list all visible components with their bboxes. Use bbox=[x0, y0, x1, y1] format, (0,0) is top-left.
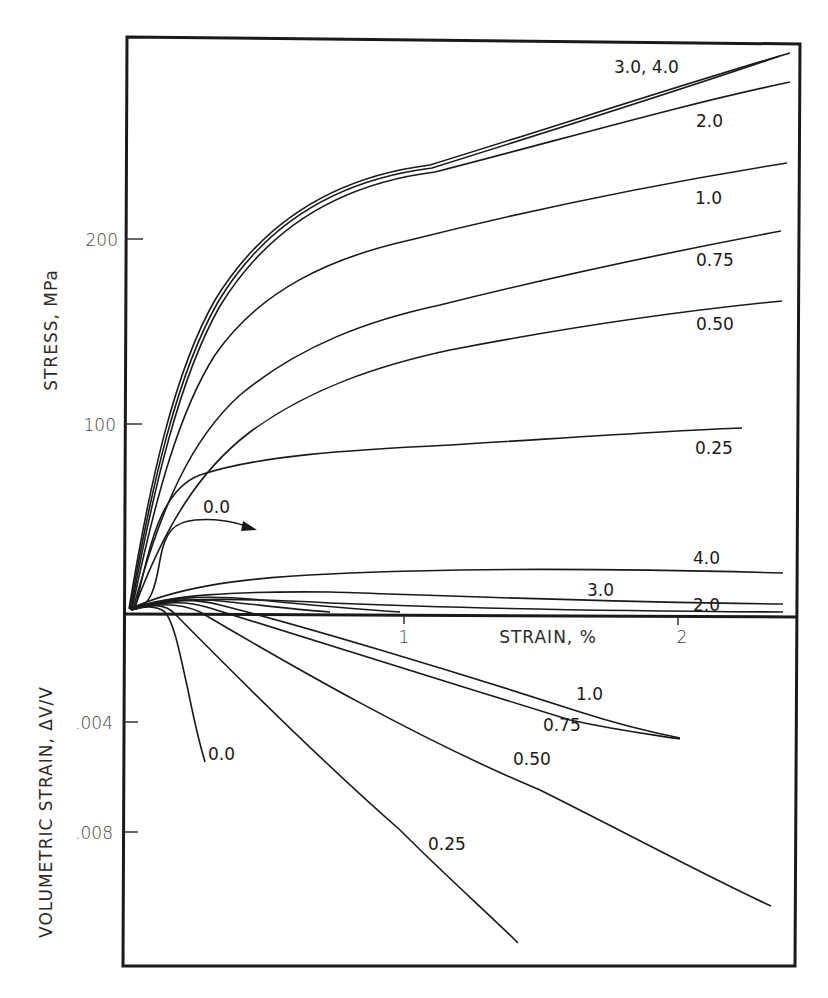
volumetric-axis-title: VOLUMETRIC STRAIN, ΔV/V bbox=[36, 686, 56, 938]
label-vol-075: 0.75 bbox=[543, 715, 581, 735]
arrow-icon bbox=[241, 521, 257, 531]
label-vol-0: 0.0 bbox=[208, 744, 235, 764]
x-tick-label-1: 1 bbox=[399, 627, 410, 647]
label-vol-3: 3.0 bbox=[587, 580, 614, 600]
curve-3-4 bbox=[129, 53, 790, 609]
low-stress-lines bbox=[130, 569, 783, 612]
label-075: 0.75 bbox=[696, 250, 734, 270]
label-025: 0.25 bbox=[695, 438, 733, 458]
stress-curves bbox=[129, 53, 790, 609]
volumetric-curves bbox=[131, 600, 771, 943]
label-vol-2: 2.0 bbox=[693, 595, 720, 615]
label-vol-050: 0.50 bbox=[513, 749, 551, 769]
y-tick-label-008: .008 bbox=[75, 823, 113, 843]
curve-025 bbox=[135, 428, 742, 609]
curve-3-4b bbox=[130, 56, 780, 609]
label-3-4: 3.0, 4.0 bbox=[614, 57, 679, 77]
stress-axis-title: STRESS, MPa bbox=[41, 269, 61, 391]
y-tick-label-200: 200 bbox=[86, 230, 118, 250]
curve-1 bbox=[132, 163, 787, 609]
vol-curve-025 bbox=[131, 606, 518, 943]
x-tick-label-2: 2 bbox=[677, 627, 688, 647]
label-vol-025: 0.25 bbox=[428, 834, 466, 854]
label-vol-1: 1.0 bbox=[576, 684, 603, 704]
strain-axis-title: STRAIN, % bbox=[499, 627, 597, 647]
vol-curve-075 bbox=[131, 603, 680, 739]
vol-curve-0 bbox=[131, 607, 205, 762]
label-2: 2.0 bbox=[696, 111, 723, 131]
curve-2 bbox=[131, 82, 790, 609]
curve-050 bbox=[134, 301, 782, 609]
y-tick-label-100: 100 bbox=[84, 415, 116, 435]
stress-strain-chart: 200 100 .004 .008 1 2 STRESS, MPa VOLUME… bbox=[0, 0, 828, 998]
label-vol-4: 4.0 bbox=[693, 548, 720, 568]
label-0: 0.0 bbox=[203, 497, 230, 517]
curve-075 bbox=[133, 231, 781, 609]
label-1: 1.0 bbox=[695, 188, 722, 208]
label-050: 0.50 bbox=[696, 314, 734, 334]
y-tick-label-004: .004 bbox=[75, 713, 113, 733]
